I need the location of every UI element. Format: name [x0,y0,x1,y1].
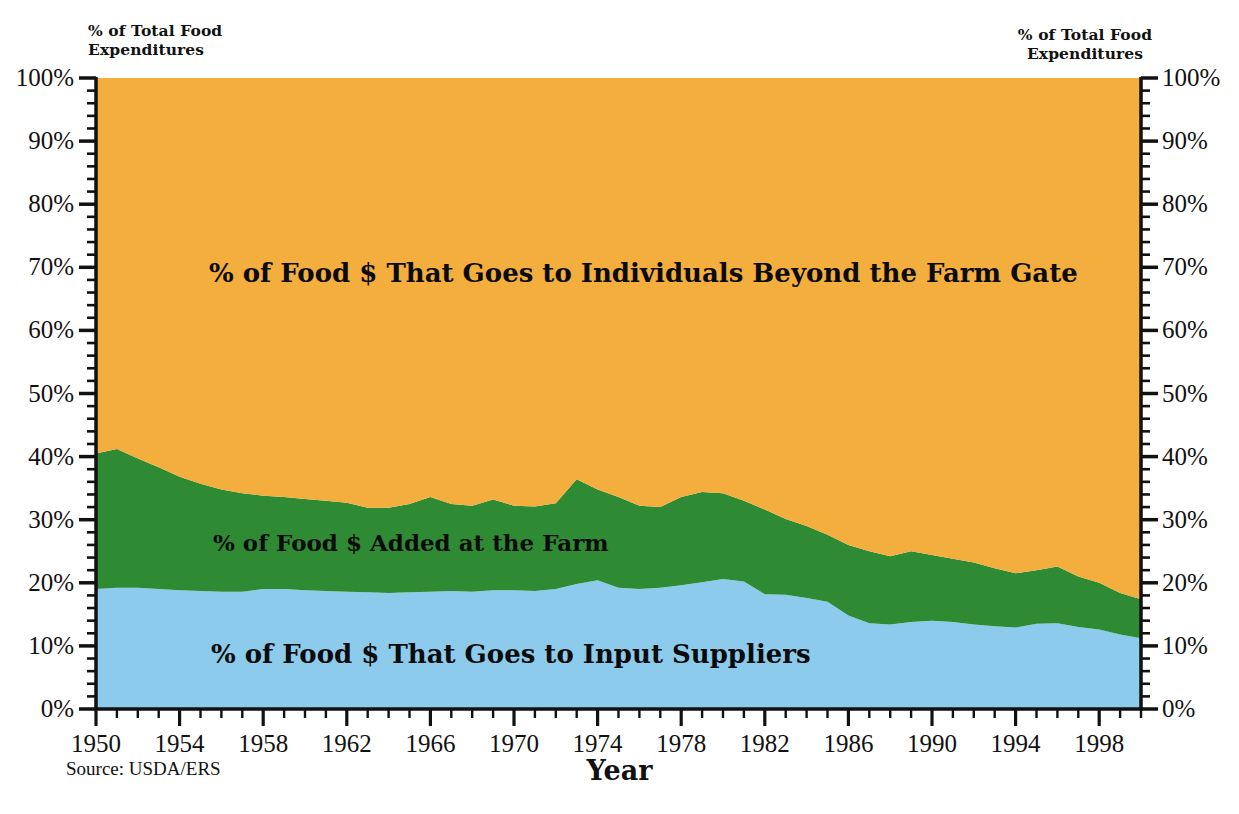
area-label-input-suppliers: % of Food $ That Goes to Input Suppliers [211,641,811,667]
y-tick-label-left-90: 90% [0,128,74,153]
y-tick-label-left-50: 50% [0,381,74,406]
y-tick-label-right-40: 40% [1162,444,1208,469]
caption-line: Expenditures [88,40,204,59]
y-tick-label-left-100: 100% [0,65,74,90]
y-tick-label-left-60: 60% [0,317,74,342]
right-axis-caption: % of Total FoodExpenditures [955,26,1215,63]
y-tick-label-left-40: 40% [0,444,74,469]
stacked-area-plot [0,0,1239,814]
left-axis-caption: % of Total FoodExpenditures [88,22,318,59]
y-tick-label-right-80: 80% [1162,191,1208,216]
y-tick-label-right-100: 100% [1162,65,1220,90]
area-label-added-at-farm: % of Food $ Added at the Farm [213,531,609,554]
y-tick-label-left-0: 0% [0,696,74,721]
area-series-group [96,78,1141,709]
y-tick-label-right-10: 10% [1162,633,1208,658]
chart-figure: % of Total FoodExpenditures % of Total F… [0,0,1239,814]
y-tick-label-left-70: 70% [0,254,74,279]
y-tick-label-right-50: 50% [1162,381,1208,406]
y-tick-label-right-30: 30% [1162,507,1208,532]
y-tick-label-left-30: 30% [0,507,74,532]
caption-line: Expenditures [1027,44,1143,63]
y-tick-label-right-90: 90% [1162,128,1208,153]
caption-line: % of Total Food [88,21,222,40]
y-tick-label-right-0: 0% [1162,696,1195,721]
y-tick-label-right-60: 60% [1162,317,1208,342]
y-tick-label-left-20: 20% [0,570,74,595]
y-tick-label-right-20: 20% [1162,570,1208,595]
x-axis-title: Year [0,755,1239,786]
caption-line: % of Total Food [1018,25,1152,44]
y-tick-label-right-70: 70% [1162,254,1208,279]
y-tick-label-left-10: 10% [0,633,74,658]
y-tick-label-left-80: 80% [0,191,74,216]
area-label-beyond-farm-gate: % of Food $ That Goes to Individuals Bey… [209,260,1078,286]
x-tick-label-1998: 1998 [1039,731,1159,756]
